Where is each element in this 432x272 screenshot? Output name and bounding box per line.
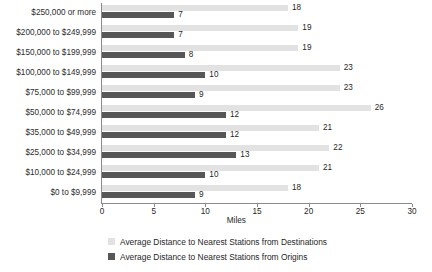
category-label: $35,000 to $49,999 (0, 123, 96, 143)
category-label: $100,000 to $149,999 (0, 63, 96, 83)
bar-destinations (102, 185, 288, 191)
bar-origins (102, 32, 174, 38)
bar-row: $150,000 to $199,999198 (0, 43, 432, 63)
bar-destinations (102, 145, 329, 151)
bar-row: $0 to $9,999189 (0, 183, 432, 203)
light-gray-swatch-icon (108, 238, 115, 245)
bar-origins (102, 192, 195, 198)
bar-origins (102, 52, 185, 58)
category-label: $50,000 to $74,999 (0, 103, 96, 123)
bar-origins (102, 152, 236, 158)
bar-value-label: 21 (323, 164, 332, 172)
bar-value-label: 18 (292, 4, 301, 12)
bar-value-label: 7 (178, 31, 183, 39)
dark-gray-swatch-icon (108, 253, 115, 260)
bar-row: $100,000 to $149,9992310 (0, 63, 432, 83)
bar-value-label: 19 (302, 44, 311, 52)
category-label: $150,000 to $199,999 (0, 43, 96, 63)
category-label: $75,000 to $99,999 (0, 83, 96, 103)
x-axis-tick-label: 30 (407, 207, 416, 217)
bar-destinations (102, 125, 319, 131)
category-label: $0 to $9,999 (0, 183, 96, 203)
bar-destinations (102, 25, 298, 31)
legend-item-origins: Average Distance to Nearest Stations fro… (108, 249, 327, 264)
bar-row: $10,000 to $24,9992110 (0, 163, 432, 183)
bar-value-label: 12 (230, 131, 239, 139)
bar-row: $200,000 to $249,999197 (0, 23, 432, 43)
x-axis-title: Miles (227, 216, 246, 226)
bar-value-label: 10 (209, 171, 218, 179)
bar-value-label: 8 (189, 51, 194, 59)
horizontal-bar-chart: $250,000 or more187$200,000 to $249,9991… (0, 0, 432, 272)
bar-row: $250,000 or more187 (0, 3, 432, 23)
bar-origins (102, 112, 226, 118)
bar-destinations (102, 5, 288, 11)
bar-value-label: 12 (230, 111, 239, 119)
bar-value-label: 22 (333, 144, 342, 152)
x-axis-tick-label: 0 (100, 207, 105, 217)
x-axis-tick-label: 25 (356, 207, 365, 217)
chart-legend: Average Distance to Nearest Stations fro… (108, 234, 327, 264)
bar-origins (102, 12, 174, 18)
category-label: $25,000 to $34,999 (0, 143, 96, 163)
bar-origins (102, 172, 205, 178)
bar-row: $50,000 to $74,9992612 (0, 103, 432, 123)
bar-value-label: 9 (199, 91, 204, 99)
x-axis-tick-label: 15 (252, 207, 261, 217)
bar-value-label: 7 (178, 11, 183, 19)
bar-value-label: 26 (375, 104, 384, 112)
bar-value-label: 10 (209, 71, 218, 79)
bar-value-label: 21 (323, 124, 332, 132)
bar-destinations (102, 65, 340, 71)
bar-origins (102, 72, 205, 78)
bar-value-label: 23 (344, 84, 353, 92)
category-label: $10,000 to $24,999 (0, 163, 96, 183)
bar-origins (102, 132, 226, 138)
legend-item-destinations: Average Distance to Nearest Stations fro… (108, 234, 327, 249)
x-axis-tick-label: 20 (304, 207, 313, 217)
bar-value-label: 13 (240, 151, 249, 159)
bar-destinations (102, 45, 298, 51)
bar-value-label: 19 (302, 24, 311, 32)
bar-value-label: 18 (292, 184, 301, 192)
bar-value-label: 9 (199, 191, 204, 199)
category-label: $200,000 to $249,999 (0, 23, 96, 43)
legend-item-label: Average Distance to Nearest Stations fro… (120, 252, 307, 262)
x-axis-tick-label: 5 (151, 207, 156, 217)
bar-destinations (102, 85, 340, 91)
x-axis-tick-label: 10 (201, 207, 210, 217)
category-label: $250,000 or more (0, 3, 96, 23)
bar-value-label: 23 (344, 64, 353, 72)
legend-item-label: Average Distance to Nearest Stations fro… (120, 237, 327, 247)
bar-origins (102, 92, 195, 98)
bar-row: $75,000 to $99,999239 (0, 83, 432, 103)
bar-row: $25,000 to $34,9992213 (0, 143, 432, 163)
bar-row: $35,000 to $49,9992112 (0, 123, 432, 143)
